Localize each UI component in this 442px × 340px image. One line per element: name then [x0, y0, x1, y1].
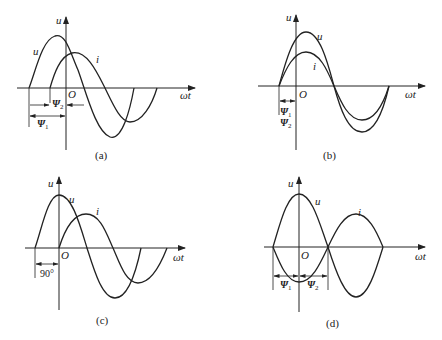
u-curve-label: u	[315, 195, 321, 207]
origin-label: O	[61, 249, 69, 261]
y-axis-label: u	[56, 14, 62, 26]
u-curve-label: u	[317, 30, 323, 42]
psi1-sub: 1	[45, 123, 49, 131]
y-axis-label: u	[286, 11, 292, 23]
u-curve	[35, 195, 141, 298]
y-axis-label: u	[288, 177, 294, 189]
caption-a: (a)	[95, 149, 108, 162]
i-curve-label: i	[313, 60, 316, 72]
psi2-sub: 2	[60, 103, 64, 111]
psi1-sub: 1	[288, 284, 292, 292]
i-curve-label: i	[96, 53, 99, 65]
x-axis-label: ωt	[180, 89, 192, 101]
i-curve-label: i	[96, 205, 99, 217]
origin-label: O	[301, 249, 309, 261]
caption-d: (d)	[326, 317, 339, 330]
panel-a: u u i O ωt Ψ 2 Ψ 1 (a)	[17, 14, 195, 162]
phase-90-label: 90°	[40, 268, 54, 279]
psi2-sub: 2	[288, 122, 292, 130]
caption-c: (c)	[96, 314, 109, 327]
u-curve-label: u	[69, 193, 75, 205]
panel-d: u u i O ωt Ψ 1 Ψ 2 (d)	[264, 177, 427, 330]
y-axis-label: u	[48, 177, 54, 189]
psi1-sub: 1	[288, 111, 292, 119]
x-axis-label: ωt	[415, 250, 427, 262]
panel-b: u u i O ωt Ψ 1 Ψ 2 (b)	[258, 11, 425, 162]
i-curve-label: i	[358, 206, 361, 218]
origin-label: O	[68, 88, 76, 100]
panel-c: u u i O ωt 90° (c)	[25, 177, 185, 327]
caption-b: (b)	[323, 149, 336, 162]
phase-diagram-figure: u u i O ωt Ψ 2 Ψ 1 (a) u u i O ωt Ψ 1 Ψ …	[0, 0, 442, 340]
u-curve-label: u	[33, 45, 39, 57]
x-axis-label: ωt	[405, 88, 417, 100]
x-axis-label: ωt	[173, 251, 185, 263]
psi2-sub: 2	[315, 284, 319, 292]
origin-label: O	[299, 88, 307, 100]
